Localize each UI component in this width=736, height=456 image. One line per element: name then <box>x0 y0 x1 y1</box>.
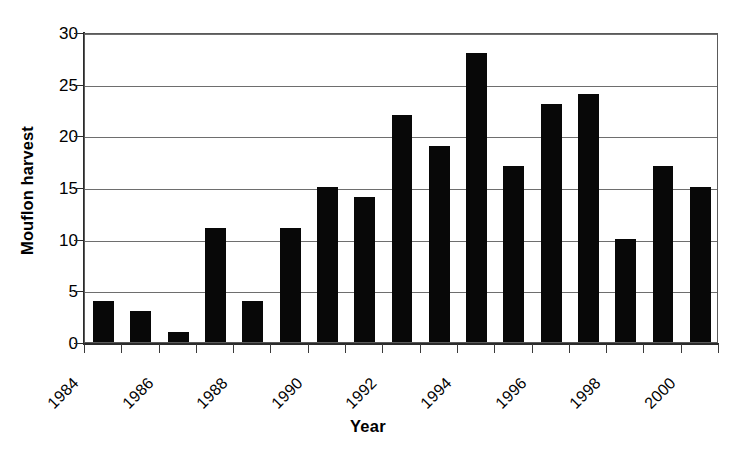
x-axis-tick-mark <box>308 344 309 353</box>
y-axis-tick-mark <box>74 136 84 137</box>
x-axis-tick-label: 1986 <box>119 374 157 412</box>
y-axis-title: Mouflon harvest <box>10 70 44 310</box>
x-axis-tick-label: 2000 <box>641 374 679 412</box>
x-axis-tick-mark <box>382 344 383 353</box>
bar-chart-figure: Mouflon harvest 051015202530 Year 198419… <box>0 0 736 456</box>
x-axis-tick-mark <box>121 344 122 353</box>
y-axis-tick-mark <box>74 240 84 241</box>
x-axis-tick-mark <box>569 344 570 353</box>
x-axis-tick-label: 1992 <box>343 374 381 412</box>
bar <box>541 104 562 342</box>
x-axis-tick-label: 1998 <box>566 374 604 412</box>
bars-group <box>85 34 717 342</box>
x-axis-tick-label: 1994 <box>417 374 455 412</box>
bar <box>392 115 413 342</box>
bar <box>205 228 226 342</box>
y-axis-title-text: Mouflon harvest <box>18 126 37 255</box>
x-axis-tick-mark <box>270 344 271 353</box>
bar <box>653 166 674 342</box>
y-axis-tick-mark <box>74 343 84 344</box>
x-axis-tick-mark <box>84 344 85 353</box>
y-axis-tick-mark <box>74 85 84 86</box>
x-axis-tick-mark <box>196 344 197 353</box>
x-axis-tick-mark <box>681 344 682 353</box>
x-axis-tick-mark <box>159 344 160 353</box>
bar <box>578 94 599 342</box>
bar <box>280 228 301 342</box>
x-axis-tick-mark <box>718 344 719 353</box>
bar <box>503 166 524 342</box>
y-axis-tick-mark <box>74 33 84 34</box>
bar <box>93 301 114 342</box>
x-axis-tick-label: 1988 <box>193 374 231 412</box>
plot-area <box>84 33 718 343</box>
bar <box>466 53 487 342</box>
x-axis-tick-mark <box>345 344 346 353</box>
bar <box>354 197 375 342</box>
x-axis-tick-mark <box>643 344 644 353</box>
x-axis-tick-mark <box>233 344 234 353</box>
bar <box>690 187 711 342</box>
x-axis-tick-label: 1990 <box>268 374 306 412</box>
bar <box>429 146 450 342</box>
x-axis-tick-mark <box>457 344 458 353</box>
y-axis-tick-mark <box>74 188 84 189</box>
bar <box>242 301 263 342</box>
x-axis-title: Year <box>0 417 736 436</box>
bar <box>317 187 338 342</box>
bar <box>130 311 151 342</box>
x-axis-spine <box>83 343 719 345</box>
x-axis-tick-label: 1996 <box>492 374 530 412</box>
x-axis-tick-mark <box>420 344 421 353</box>
y-axis-tick-mark <box>74 291 84 292</box>
bar <box>168 332 189 342</box>
x-axis-tick-mark <box>494 344 495 353</box>
x-axis-tick-mark <box>532 344 533 353</box>
x-axis-tick-mark <box>606 344 607 353</box>
bar <box>615 239 636 342</box>
